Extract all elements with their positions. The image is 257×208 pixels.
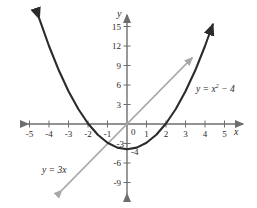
x-tick-label--5: -5 — [26, 130, 34, 139]
x-tick-label--1: -1 — [104, 130, 112, 139]
y-axis — [124, 15, 131, 194]
origin-label: 0 — [131, 128, 136, 137]
x-tick-label-5: 5 — [222, 130, 227, 139]
parabola-equation-prefix: y = x — [196, 84, 216, 94]
y-tick-label-12: 12 — [112, 42, 121, 51]
y-tick-label--3: -3 — [117, 139, 125, 148]
x-tick-label-1: 1 — [144, 130, 149, 139]
vertex-label--4: -4 — [131, 148, 139, 157]
y-axis-name: y — [117, 9, 121, 19]
x-axis-name: x — [234, 127, 238, 137]
y-tick-label-9: 9 — [117, 61, 122, 70]
x-tick-label-2: 2 — [164, 130, 169, 139]
parabola-equation-label: y = x2 − 4 — [196, 85, 235, 95]
parabola-equation-suffix: − 4 — [219, 84, 235, 94]
line-equation-label: y = 3x — [42, 166, 66, 176]
y-tick-label--6: -6 — [114, 159, 122, 168]
y-tick-label--9: -9 — [114, 178, 122, 187]
x-tick-label-4: 4 — [203, 130, 208, 139]
y-tick-label-6: 6 — [117, 81, 122, 90]
coordinate-plane-svg — [0, 0, 257, 208]
x-tick-label--3: -3 — [65, 130, 73, 139]
x-tick-label--2: -2 — [84, 130, 92, 139]
y-tick-label-3: 3 — [117, 100, 122, 109]
graph-figure: -5 -4 -3 -2 -1 1 2 3 4 5 0 15 12 9 6 3 -… — [0, 0, 257, 208]
x-tick-label-3: 3 — [183, 130, 188, 139]
y-tick-label-15: 15 — [112, 22, 121, 31]
x-tick-label--4: -4 — [45, 130, 53, 139]
